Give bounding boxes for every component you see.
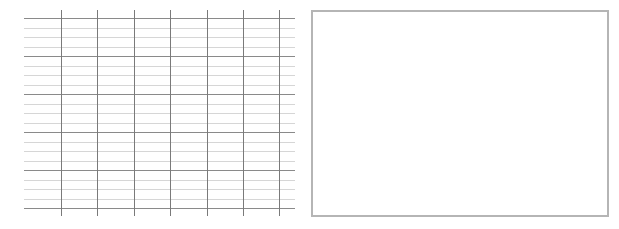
minor-grid-line [24, 37, 295, 38]
vertical-grid-line [243, 10, 244, 216]
major-grid-line [24, 94, 295, 95]
major-grid-line [24, 56, 295, 57]
minor-grid-line [24, 180, 295, 181]
minor-grid-line [24, 75, 295, 76]
minor-grid-line [24, 113, 295, 114]
minor-grid-line [24, 189, 295, 190]
minor-grid-line [24, 199, 295, 200]
vertical-grid-line [97, 10, 98, 216]
minor-grid-line [24, 161, 295, 162]
minor-grid-line [24, 123, 295, 124]
major-grid-line [24, 18, 295, 19]
minor-grid-line [24, 142, 295, 143]
vertical-grid-line [61, 10, 62, 216]
minor-grid-line [24, 66, 295, 67]
minor-grid-line [24, 28, 295, 29]
major-grid-line [24, 170, 295, 171]
vertical-grid-line [170, 10, 171, 216]
major-grid-line [24, 208, 295, 209]
minor-grid-line [24, 47, 295, 48]
major-grid-line [24, 132, 295, 133]
minor-grid-line [24, 104, 295, 105]
minor-grid-line [24, 85, 295, 86]
vertical-grid-line [279, 10, 280, 216]
minor-grid-line [24, 151, 295, 152]
vertical-grid-line [134, 10, 135, 216]
vertical-grid-line [207, 10, 208, 216]
ruled-grid-panel [0, 0, 305, 229]
blank-rectangle-panel [311, 10, 609, 217]
